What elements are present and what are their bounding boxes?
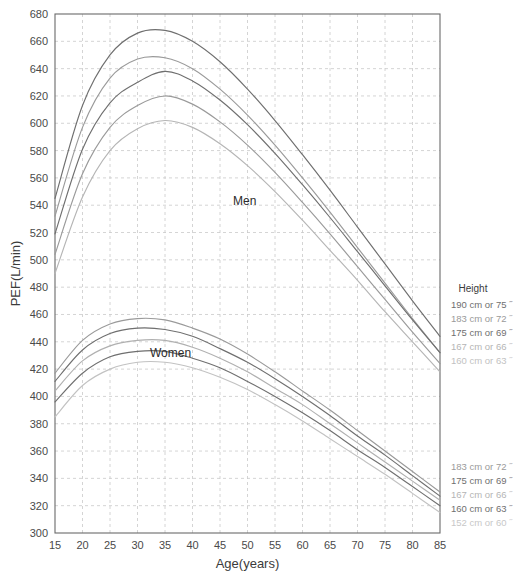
y-tick-label: 680 xyxy=(30,8,48,20)
x-tick-label: 50 xyxy=(241,539,253,551)
x-tick-label: 85 xyxy=(434,539,446,551)
x-tick-label: 15 xyxy=(49,539,61,551)
legend-entry: 183 cm or 72 ˝ xyxy=(451,461,513,472)
x-tick-label: 45 xyxy=(214,539,226,551)
y-tick-label: 320 xyxy=(30,500,48,512)
x-axis-ticks: 152025303540455055606570758085 xyxy=(49,539,446,551)
chart-svg: 3003203403603804004204404604805005205405… xyxy=(0,0,523,577)
x-tick-label: 20 xyxy=(76,539,88,551)
y-tick-label: 340 xyxy=(30,472,48,484)
legend-entry: 175 cm or 69 ˝ xyxy=(451,327,513,338)
legend-entry: 175 cm or 69 ˝ xyxy=(451,475,513,486)
y-tick-label: 560 xyxy=(30,172,48,184)
y-tick-label: 300 xyxy=(30,527,48,539)
legend-entry: 190 cm or 75 ˝ xyxy=(451,299,513,310)
x-tick-label: 30 xyxy=(131,539,143,551)
x-tick-label: 35 xyxy=(159,539,171,551)
y-tick-label: 660 xyxy=(30,35,48,47)
x-tick-label: 60 xyxy=(296,539,308,551)
y-axis-label: PEF(L/min) xyxy=(8,241,23,307)
legend-title: Height xyxy=(459,283,488,294)
pef-age-chart: 3003203403603804004204404604805005205405… xyxy=(0,0,523,577)
legend-entry: 183 cm or 72 ˝ xyxy=(451,313,513,324)
legend-entry: 160 cm or 63 ˝ xyxy=(451,503,513,514)
chart-background xyxy=(0,0,523,577)
x-tick-label: 65 xyxy=(324,539,336,551)
y-tick-label: 480 xyxy=(30,281,48,293)
legend-entry: 152 cm or 60 ˝ xyxy=(451,517,513,528)
legend-entry: 167 cm or 66 ˝ xyxy=(451,489,513,500)
x-axis-label: Age(years) xyxy=(216,556,280,571)
y-tick-label: 360 xyxy=(30,445,48,457)
y-tick-label: 600 xyxy=(30,117,48,129)
y-tick-label: 400 xyxy=(30,390,48,402)
y-tick-label: 580 xyxy=(30,145,48,157)
y-tick-label: 440 xyxy=(30,336,48,348)
y-tick-label: 380 xyxy=(30,418,48,430)
x-tick-label: 40 xyxy=(186,539,198,551)
x-tick-label: 75 xyxy=(379,539,391,551)
legend-entry: 167 cm or 66 ˝ xyxy=(451,341,513,352)
y-tick-label: 640 xyxy=(30,63,48,75)
x-tick-label: 80 xyxy=(406,539,418,551)
y-tick-label: 520 xyxy=(30,227,48,239)
x-tick-label: 70 xyxy=(351,539,363,551)
y-tick-label: 540 xyxy=(30,199,48,211)
x-tick-label: 55 xyxy=(269,539,281,551)
group-label-men: Men xyxy=(233,194,256,208)
y-tick-label: 420 xyxy=(30,363,48,375)
group-label-women: Women xyxy=(150,346,191,360)
y-tick-label: 460 xyxy=(30,308,48,320)
legend-entry: 160 cm or 63 ˝ xyxy=(451,355,513,366)
x-tick-label: 25 xyxy=(104,539,116,551)
y-tick-label: 620 xyxy=(30,90,48,102)
y-tick-label: 500 xyxy=(30,254,48,266)
